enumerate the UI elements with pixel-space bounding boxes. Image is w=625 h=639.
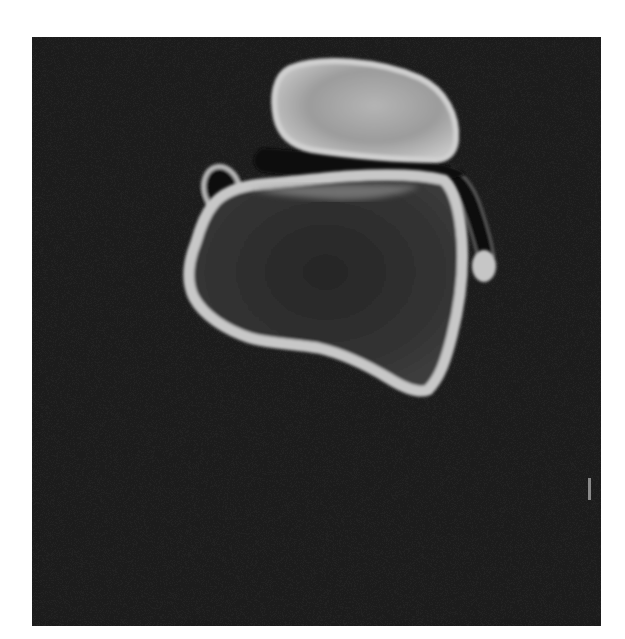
right-knob xyxy=(472,250,496,282)
edge-marker xyxy=(588,478,591,500)
ct-scan-image xyxy=(0,0,625,639)
